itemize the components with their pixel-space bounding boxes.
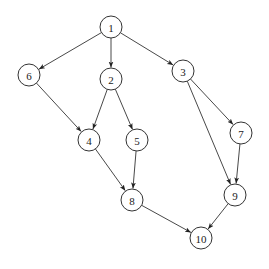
node-2: 2 [100,68,122,90]
edge-7-to-9 [236,144,240,184]
node-10: 10 [190,227,212,249]
node-label: 3 [180,66,186,78]
node-1: 1 [100,16,122,38]
node-label: 2 [108,74,114,86]
edge-2-to-5 [115,89,132,129]
node-label: 4 [86,135,92,147]
edge-1-to-6 [39,33,102,70]
node-label: 8 [129,195,135,207]
edge-3-to-7 [191,79,234,125]
edge-5-to-8 [133,151,136,189]
directed-graph: 12345678910 [0,0,269,269]
node-label: 10 [196,233,208,245]
node-4: 4 [78,129,100,151]
node-8: 8 [121,189,143,211]
node-label: 1 [108,22,114,34]
node-3: 3 [172,60,194,82]
nodes-layer: 12345678910 [18,16,252,249]
edge-3-to-9 [187,81,230,184]
node-label: 6 [26,70,32,82]
node-label: 9 [232,190,238,202]
edge-6-to-4 [36,83,81,131]
node-9: 9 [224,184,246,206]
node-7: 7 [230,122,252,144]
edge-1-to-3 [120,33,173,65]
node-5: 5 [126,129,148,151]
node-label: 7 [238,128,244,140]
node-6: 6 [18,64,40,86]
edge-2-to-4 [93,89,107,129]
node-label: 5 [134,135,140,147]
edge-9-to-10 [208,204,228,229]
edge-8-to-10 [142,205,191,232]
edge-4-to-8 [95,149,125,191]
